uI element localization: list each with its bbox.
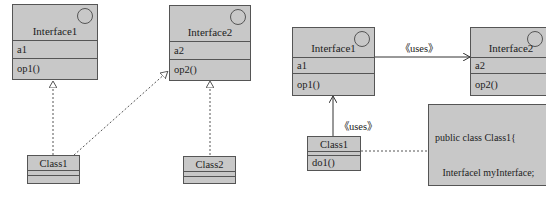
note-line: public class Class1{ <box>435 132 545 144</box>
attribute: a1 <box>13 41 97 59</box>
right-interface1-box: Interface1 a1 op1() <box>292 27 375 96</box>
right-class1-box: Class1 do1() <box>307 136 361 171</box>
left-interface1-box: Interface1 a1 op1() <box>12 4 98 80</box>
interface-circle-icon <box>230 9 246 25</box>
interface-circle-icon <box>77 8 93 24</box>
uses-stereotype-label: 《uses》 <box>400 40 438 55</box>
operations-section <box>184 177 235 183</box>
operation: op1() <box>293 74 374 95</box>
interface-name: Interface1 <box>13 25 97 37</box>
left-interface2-box: Interface2 a2 op2() <box>169 5 251 81</box>
attribute: a1 <box>293 58 374 74</box>
operation: op2() <box>471 74 546 95</box>
operation: op1() <box>13 59 97 79</box>
code-note: public class Class1{ Interfacel myInterf… <box>428 104 546 186</box>
left-class2-box: Class2 <box>183 156 236 184</box>
left-class1-box: Class1 <box>27 155 80 184</box>
attribute: a2 <box>170 42 250 60</box>
operations-section <box>28 176 79 183</box>
attribute: a2 <box>471 58 546 74</box>
uses-stereotype-label: 《uses》 <box>339 118 377 133</box>
class-name: Class1 <box>308 137 360 152</box>
interface-name: Interface1 <box>293 42 374 54</box>
realization-class1-interface2 <box>74 72 167 155</box>
operation: do1() <box>308 156 360 170</box>
class-name: Class2 <box>184 157 235 172</box>
note-line: Interfacel myInterface; <box>435 167 545 179</box>
right-interface2-box: Interface2 a2 op2() <box>470 27 546 96</box>
class-name: Class1 <box>28 156 79 171</box>
interface-name: Interface2 <box>170 26 250 38</box>
interface-name: Interface2 <box>471 42 546 54</box>
operation: op2() <box>170 60 250 80</box>
